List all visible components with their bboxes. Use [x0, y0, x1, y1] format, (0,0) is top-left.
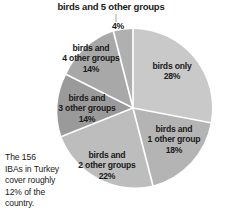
slice-label-three-other-groups: birds and 3 other groups 14% — [44, 93, 130, 124]
caption-line-4: 12% of the country. — [5, 187, 45, 209]
slice-label-four-other-groups-line2: 4 other groups — [62, 53, 119, 63]
caption-text: The 156 IBAs in Turkey cover roughly 12%… — [5, 152, 67, 210]
slice-label-two-other-groups-pct: 22% — [62, 171, 152, 181]
slice-label-three-other-groups-line2: 3 other groups — [58, 103, 115, 113]
slice-label-birds-only-text: birds only — [152, 61, 191, 71]
slice-label-one-other-group-line1: birds and — [156, 124, 193, 134]
pie-chart-figure: birds and 5 other groups — [0, 0, 228, 210]
slice-label-birds-only-pct: 28% — [139, 71, 205, 81]
caption-line-1: The 156 — [5, 152, 36, 162]
slice-label-four-other-groups: birds and 4 other groups 14% — [48, 43, 134, 74]
slice-label-birds-only: birds only 28% — [139, 61, 205, 82]
slice-label-four-other-groups-pct: 14% — [48, 64, 134, 74]
slice-label-two-other-groups: birds and 2 other groups 22% — [62, 150, 152, 181]
slice-label-three-other-groups-pct: 14% — [44, 114, 130, 124]
slice-label-two-other-groups-line1: birds and — [89, 150, 126, 160]
slice-label-five-other-groups-pct: 4% — [104, 21, 132, 31]
slice-label-four-other-groups-line1: birds and — [73, 43, 110, 53]
caption-line-3: cover roughly — [5, 175, 55, 185]
caption-line-2: IBAs in Turkey — [5, 164, 59, 174]
slice-label-three-other-groups-line1: birds and — [69, 93, 106, 103]
slice-label-one-other-group-line2: 1 other group — [148, 134, 201, 144]
slice-label-five-other-groups: 4% — [104, 21, 132, 31]
leader-label-five-other-groups: birds and 5 other groups — [26, 1, 196, 12]
slice-label-two-other-groups-line2: 2 other groups — [78, 160, 135, 170]
